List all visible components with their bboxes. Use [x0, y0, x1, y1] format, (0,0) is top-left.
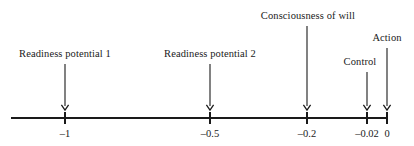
event-label-consciousness-of-will: Consciousness of will [261, 10, 355, 22]
event-label-control: Control [344, 56, 377, 68]
tick-label: –0.2 [298, 128, 316, 140]
event-label-readiness-potential-2: Readiness potential 2 [164, 48, 256, 60]
event-arrows-group [61, 26, 390, 110]
tick-label: 0 [384, 128, 389, 140]
tick-label: –0.02 [355, 128, 379, 140]
tick-label: –1 [60, 128, 71, 140]
tick-label: –0.5 [201, 128, 219, 140]
event-label-action: Action [372, 32, 401, 44]
timeline-figure: Readiness potential 1Readiness potential… [0, 0, 414, 146]
event-label-readiness-potential-1: Readiness potential 1 [19, 48, 111, 60]
